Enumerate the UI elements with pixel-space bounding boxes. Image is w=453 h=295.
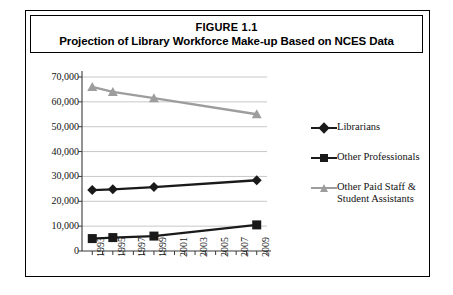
x-tick-label: 1993 <box>96 237 106 257</box>
x-tick-label: 2003 <box>199 237 209 257</box>
x-tick-label: 1999 <box>158 237 168 257</box>
x-tick-label: 2005 <box>220 237 230 257</box>
data-point-marker <box>87 82 97 91</box>
x-tick-label: 1997 <box>137 237 147 257</box>
x-tick-label: 1995 <box>117 237 127 257</box>
data-point-marker <box>87 185 97 195</box>
data-point-marker <box>252 220 261 229</box>
legend-item-librarians: Librarians <box>311 121 431 134</box>
figure-number: FIGURE 1.1 <box>196 20 258 34</box>
figure-title-box: FIGURE 1.1 Projection of Library Workfor… <box>30 15 423 53</box>
legend-label-line2: Student Assistants <box>337 193 414 204</box>
x-tick-label: 2007 <box>240 237 250 257</box>
series-line-2 <box>92 87 256 114</box>
data-point-marker <box>149 182 159 192</box>
diamond-marker-icon <box>318 122 329 133</box>
chart-legend: Librarians Other Professionals Other Pai… <box>311 121 431 222</box>
x-tick-label: 2001 <box>179 237 189 257</box>
legend-label-librarians: Librarians <box>337 121 380 133</box>
legend-label-other-professionals: Other Professionals <box>337 151 420 163</box>
legend-label-other-paid-staff: Other Paid Staff & Student Assistants <box>337 181 416 205</box>
figure-frame: FIGURE 1.1 Projection of Library Workfor… <box>25 10 430 277</box>
legend-item-other-paid-staff: Other Paid Staff & Student Assistants <box>311 181 431 205</box>
legend-swatch-librarians <box>311 122 337 134</box>
data-point-marker <box>108 184 118 194</box>
legend-swatch-other-paid-staff <box>311 182 337 194</box>
legend-swatch-other-professionals <box>311 152 337 164</box>
square-marker-icon <box>320 154 328 162</box>
page-title: Projection of Library Workforce Make-up … <box>59 34 394 49</box>
chart-plot-area: 010,00020,00030,00040,00050,00060,00070,… <box>26 53 428 275</box>
legend-label-line1: Other Paid Staff & <box>337 181 416 192</box>
triangle-marker-icon <box>320 184 328 192</box>
x-tick-label: 2009 <box>261 237 271 257</box>
legend-item-other-professionals: Other Professionals <box>311 151 431 164</box>
